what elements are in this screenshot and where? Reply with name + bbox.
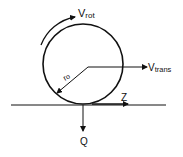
rotation-arrow xyxy=(41,17,75,45)
v-trans-label: Vtrans xyxy=(148,62,172,74)
v-rot-label: Vrot xyxy=(78,7,95,20)
wheel-diagram: Vrot Vtrans ro Z Q xyxy=(0,0,183,157)
load-label: Q xyxy=(80,136,88,147)
wheel-circle xyxy=(43,24,123,104)
radius-arrow xyxy=(57,67,88,93)
friction-label: Z xyxy=(121,92,127,103)
radius-label: ro xyxy=(62,72,72,83)
